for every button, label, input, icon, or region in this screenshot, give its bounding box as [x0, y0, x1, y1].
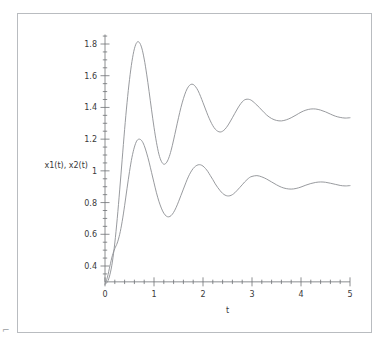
y-tick-label: 1.8	[84, 40, 97, 49]
x-tick-label: 2	[200, 290, 205, 299]
x-tick-label: 3	[249, 290, 254, 299]
y-tick-label: 0.6	[84, 230, 97, 239]
x-tick-label: 1	[151, 290, 156, 299]
x-tick-label: 0	[102, 290, 107, 299]
y-tick-label: 1.4	[84, 103, 97, 112]
curve-x1	[105, 42, 350, 285]
plot-canvas: 0123450.40.60.811.21.41.61.8tx1(t), x2(t…	[0, 0, 390, 347]
data-curves	[105, 42, 350, 285]
y-tick-label: 0.8	[84, 199, 97, 208]
axes	[101, 34, 351, 286]
y-tick-label: 1.2	[84, 135, 97, 144]
x-tick-label: 5	[347, 290, 352, 299]
y-tick-label: 1.6	[84, 72, 97, 81]
y-tick-label: 1	[92, 167, 97, 176]
curve-x2	[105, 139, 350, 284]
y-axis-title: x1(t), x2(t)	[45, 161, 89, 170]
axis-labels: 0123450.40.60.811.21.41.61.8tx1(t), x2(t…	[45, 40, 353, 315]
y-tick-label: 0.4	[84, 262, 97, 271]
x-axis-title: t	[226, 306, 229, 315]
corner-mark-icon: ⌐	[2, 327, 8, 334]
x-tick-label: 4	[298, 290, 303, 299]
